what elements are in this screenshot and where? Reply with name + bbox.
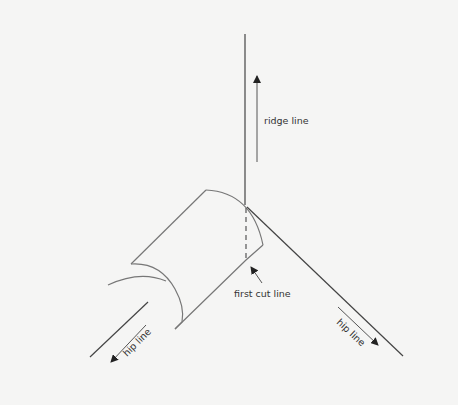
rafter-bottom-edge	[175, 245, 263, 329]
right-hip-line	[247, 207, 403, 356]
first-cut-arrow	[251, 267, 262, 283]
rafter-top-edge	[131, 190, 206, 264]
left-hip-line	[90, 302, 148, 357]
right-hip-label: hip line	[335, 316, 368, 348]
rafter-end-arc	[206, 190, 263, 245]
diagram-canvas: ridge line hip line first cut line hip l…	[0, 0, 458, 405]
ridge-line-label: ridge line	[264, 115, 309, 126]
first-cut-label: first cut line	[234, 288, 291, 299]
roof-diagram: ridge line hip line first cut line hip l…	[0, 0, 458, 405]
rafter-front-profile	[131, 264, 183, 329]
rafter-left-arc	[108, 276, 166, 285]
left-hip-label: hip line	[121, 326, 154, 359]
